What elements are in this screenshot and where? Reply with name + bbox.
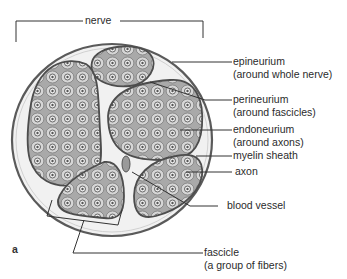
label-myelin-sheath: myelin sheath — [233, 149, 298, 162]
label-endoneurium-note: (around axons) — [233, 136, 304, 149]
label-fascicle: fascicle (a group of fibers) — [204, 246, 287, 272]
label-endoneurium: endoneurium (around axons) — [233, 123, 304, 149]
label-fascicle-note: (a group of fibers) — [204, 259, 287, 272]
label-epineurium-term: epineurium — [233, 55, 332, 68]
blood-vessel-shape — [122, 156, 130, 172]
fascicle-right — [108, 80, 202, 160]
label-fascicle-term: fascicle — [204, 246, 287, 259]
label-endoneurium-term: endoneurium — [233, 123, 304, 136]
label-blood-vessel: blood vessel — [227, 199, 285, 212]
label-perineurium-term: perineurium — [233, 93, 316, 106]
label-epineurium: epineurium (around whole nerve) — [233, 55, 332, 81]
label-perineurium: perineurium (around fascicles) — [233, 93, 316, 119]
label-nerve: nerve — [85, 14, 111, 27]
fascicle-left — [28, 61, 101, 186]
fascicle-top — [92, 46, 154, 86]
panel-letter: a — [12, 243, 18, 255]
label-perineurium-note: (around fascicles) — [233, 106, 316, 119]
label-axon: axon — [235, 165, 258, 178]
label-epineurium-note: (around whole nerve) — [233, 68, 332, 81]
